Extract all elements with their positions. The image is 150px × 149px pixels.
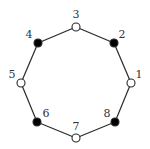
node-label-2: 2 bbox=[119, 28, 126, 41]
edge-5-6 bbox=[21, 83, 37, 122]
edge-4-5 bbox=[21, 43, 38, 83]
edge-8-1 bbox=[115, 83, 131, 122]
node-3 bbox=[72, 23, 80, 31]
node-label-1: 1 bbox=[136, 68, 143, 81]
edge-2-3 bbox=[76, 27, 114, 43]
edge-1-2 bbox=[114, 43, 131, 83]
cycle-graph: 12345678 bbox=[0, 0, 150, 149]
node-8 bbox=[111, 118, 119, 126]
node-2 bbox=[110, 39, 118, 47]
node-1 bbox=[127, 79, 135, 87]
node-label-7: 7 bbox=[73, 120, 80, 133]
node-label-6: 6 bbox=[43, 107, 50, 120]
node-label-5: 5 bbox=[9, 68, 16, 81]
edge-7-8 bbox=[76, 122, 115, 138]
node-label-8: 8 bbox=[104, 107, 111, 120]
node-label-3: 3 bbox=[73, 8, 80, 21]
node-5 bbox=[17, 79, 25, 87]
node-7 bbox=[72, 134, 80, 142]
node-6 bbox=[33, 118, 41, 126]
node-4 bbox=[34, 39, 42, 47]
edge-3-4 bbox=[38, 27, 76, 43]
edge-6-7 bbox=[37, 122, 76, 138]
node-label-4: 4 bbox=[26, 28, 33, 41]
